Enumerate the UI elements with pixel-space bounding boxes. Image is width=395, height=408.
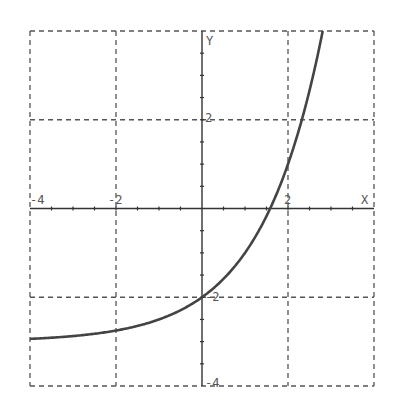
x-tick-label-neg4: -4 [30,193,44,207]
y-tick-label-neg2: -2 [205,290,219,304]
function-plot: X Y -4 -2 2 2 -2 -4 [0,0,395,408]
y-tick-label-2: 2 [205,111,212,125]
axes [30,31,374,386]
x-tick-label-neg2: -2 [108,193,122,207]
x-tick-label-2: 2 [284,193,291,207]
y-tick-label-neg4: -4 [205,376,219,390]
y-axis-label: Y [206,34,214,48]
function-curve [30,31,323,339]
x-axis-label: X [361,193,369,207]
